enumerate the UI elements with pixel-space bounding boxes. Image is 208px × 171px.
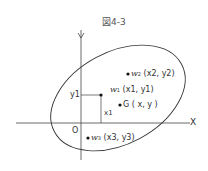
figure-title: 図4-3 [102,15,126,28]
x-axis-label: X [190,118,196,127]
point-w3 [86,136,89,139]
x1-label: x1 [104,110,113,117]
point-w2 [126,72,129,75]
point-g [118,103,121,106]
y1-label: y1 [70,91,80,99]
label-w3: w3 (x3, y3) [91,134,135,142]
origin-label: O [72,127,78,135]
ellipse-boundary [33,24,203,171]
label-w2: w2 (x2, y2) [131,70,175,78]
label-g: G ( x, y ) [123,101,158,109]
label-w1: w1 (x1, y1) [110,86,154,94]
point-w1 [99,93,102,96]
